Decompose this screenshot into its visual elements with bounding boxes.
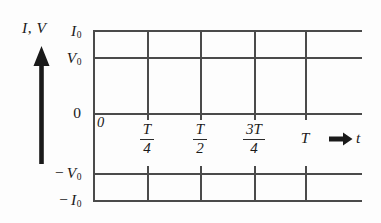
gridline-t-quarter-upper	[147, 30, 149, 120]
vertical-axis-line	[93, 30, 95, 200]
y-label-v0-positive-text: V0	[67, 49, 81, 66]
y-label-v0-negative-text: V0	[67, 164, 81, 181]
y-label-i0-positive-text: I0	[71, 22, 81, 39]
x-tick-label-t-full: T	[275, 129, 335, 147]
minus-sign-i0: −	[59, 191, 68, 208]
gridline-i0-negative	[93, 200, 362, 202]
x-tick-label-t-half: T 2	[170, 122, 230, 157]
gridline-t-three-quarter-upper	[254, 30, 256, 120]
fraction-t-three-quarter: 3T 4	[243, 122, 265, 157]
y-label-i0-positive: I0	[0, 22, 86, 40]
right-arrow-icon	[329, 132, 353, 146]
fraction-t-half: T 2	[193, 122, 207, 157]
gridline-t-half-upper	[200, 30, 202, 120]
gridline-v0-negative	[93, 173, 362, 175]
gridline-t-quarter-lower	[147, 166, 149, 200]
gridline-t-half-lower	[200, 166, 202, 200]
gridline-i0-positive	[93, 30, 362, 32]
zero-axis-line	[93, 113, 362, 115]
fraction-denominator: 4	[243, 140, 265, 157]
y-label-zero: 0	[0, 104, 86, 122]
minus-sign-v0: −	[55, 164, 64, 181]
x-tick-t-full-text: T	[301, 129, 310, 146]
gridline-t-full-lower	[305, 166, 307, 200]
gridline-t-full-upper	[305, 30, 307, 120]
gridline-t-three-quarter-lower	[254, 166, 256, 200]
gridline-v0-positive	[93, 57, 362, 59]
horizontal-axis-label: t	[356, 129, 360, 147]
fraction-denominator: 4	[140, 140, 154, 157]
y-label-v0-negative: −V0	[0, 164, 86, 182]
fraction-t-quarter: T 4	[140, 122, 154, 157]
y-label-v0-positive: V0	[0, 49, 86, 67]
fraction-denominator: 2	[193, 140, 207, 157]
ac-axes-figure: I, V I0 V0 0 −V0 −I0 0 T 4	[0, 0, 381, 223]
y-label-zero-text: 0	[73, 104, 81, 121]
y-label-i0-negative-text: I0	[71, 191, 81, 208]
fraction-numerator: 3T	[243, 122, 265, 140]
fraction-numerator: T	[140, 122, 154, 140]
y-label-i0-negative: −I0	[0, 191, 86, 209]
origin-label: 0	[97, 114, 104, 131]
fraction-numerator: T	[193, 122, 207, 140]
x-tick-label-t-quarter: T 4	[117, 122, 177, 157]
